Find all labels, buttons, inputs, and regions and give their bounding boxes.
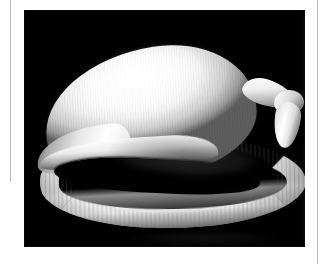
shell-photograph: White seashell photographed against a so… [24,10,305,247]
plate-reflection [132,232,282,246]
right-column-rule [317,0,318,264]
shell-stage [24,10,305,247]
shell-neck [271,101,302,150]
page-canvas: White seashell photographed against a so… [0,0,329,264]
left-column-rule [10,0,11,181]
